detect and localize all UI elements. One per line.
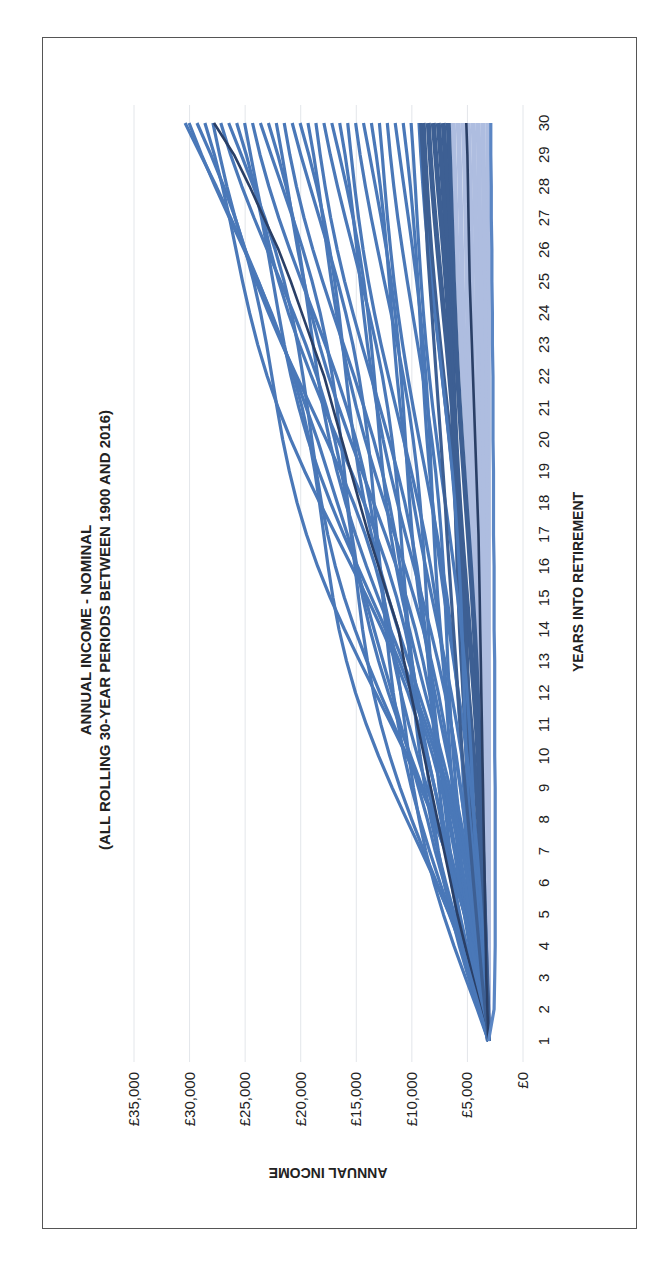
x-tick-label: 19 [535,463,552,480]
x-tick-label: 18 [535,495,552,512]
x-tick-label: 2 [535,1005,552,1013]
x-tick-label: 17 [535,526,552,543]
x-tick-label: 1 [535,1037,552,1045]
x-tick-label: 5 [535,910,552,918]
x-tick-label: 28 [535,178,552,195]
x-tick-label: 21 [535,400,552,417]
x-tick-label: 4 [535,942,552,950]
x-tick-label: 7 [535,847,552,855]
chart-subtitle: (ALL ROLLING 30-YEAR PERIODS BETWEEN 190… [96,410,113,850]
y-tick-label: £10,000 [403,1072,420,1126]
x-tick-label: 25 [535,273,552,290]
y-tick-label: £30,000 [181,1072,198,1126]
line-chart: 1234567891011121314151617181920212223242… [43,38,638,1230]
y-axis-title: ANNUAL INCOME [269,1165,388,1181]
rotated-chart: 1234567891011121314151617181920212223242… [43,38,638,1230]
y-axis-ticks: £0£5,000£10,000£15,000£20,000£25,000£30,… [125,1072,531,1126]
chart-title: ANNUAL INCOME - NOMINAL [77,525,94,736]
x-tick-label: 6 [535,879,552,887]
y-tick-label: £0 [514,1072,531,1089]
chart-frame: 1234567891011121314151617181920212223242… [42,37,637,1229]
x-tick-label: 3 [535,974,552,982]
x-tick-label: 10 [535,748,552,765]
x-tick-label: 15 [535,589,552,606]
x-tick-label: 26 [535,241,552,258]
y-tick-label: £20,000 [292,1072,309,1126]
x-axis-ticks: 1234567891011121314151617181920212223242… [535,115,552,1046]
data-lines [185,123,495,1041]
y-tick-label: £25,000 [236,1072,253,1126]
x-tick-label: 22 [535,368,552,385]
x-tick-label: 23 [535,336,552,353]
x-tick-label: 30 [535,115,552,132]
y-tick-label: £35,000 [125,1072,142,1126]
x-tick-label: 11 [535,717,552,733]
x-tick-label: 24 [535,305,552,322]
x-axis-title: YEARS INTO RETIREMENT [570,491,586,672]
x-tick-label: 29 [535,146,552,163]
x-tick-label: 13 [535,653,552,670]
x-tick-label: 16 [535,558,552,575]
x-tick-label: 9 [535,784,552,792]
y-tick-label: £5,000 [458,1072,475,1118]
x-tick-label: 27 [535,210,552,227]
x-tick-label: 20 [535,431,552,448]
x-tick-label: 12 [535,684,552,701]
y-tick-label: £15,000 [347,1072,364,1126]
x-tick-label: 14 [535,621,552,638]
x-tick-label: 8 [535,815,552,823]
